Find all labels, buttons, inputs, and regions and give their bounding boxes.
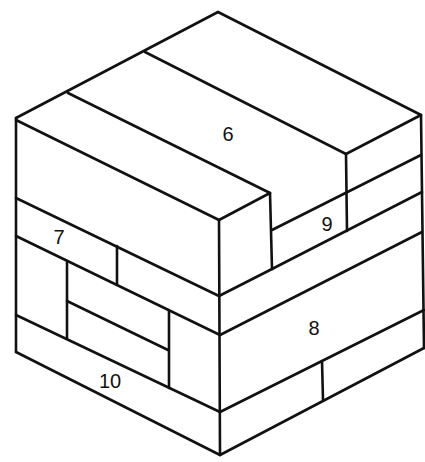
block-6-edges: [16, 52, 421, 455]
block-cube-diagram: 6 7 8 9 10: [0, 0, 425, 462]
label-block-6: 6: [222, 124, 233, 144]
label-block-7: 7: [53, 227, 64, 247]
label-block-10: 10: [99, 371, 121, 391]
block-8-edges: [220, 232, 424, 412]
block-7-edges: [16, 198, 220, 388]
label-block-9: 9: [321, 214, 332, 234]
block-10-edges: [16, 315, 220, 412]
label-block-8: 8: [308, 318, 319, 338]
